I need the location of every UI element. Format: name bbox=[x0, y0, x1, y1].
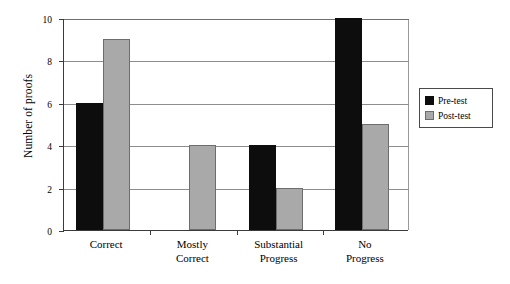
x-tick-label-no-progress: No Progress bbox=[322, 238, 408, 265]
x-tick-label-substantial-progress: Substantial Progress bbox=[236, 238, 322, 265]
y-tick-label-2: 2 bbox=[47, 185, 52, 195]
y-tick-label-6: 6 bbox=[47, 100, 52, 110]
legend-label-post-test: Post-test bbox=[438, 111, 471, 121]
bar-post-test-mostly-correct bbox=[189, 145, 216, 230]
y-tick-label-0: 0 bbox=[47, 227, 52, 237]
y-tick-label-8: 8 bbox=[47, 57, 52, 67]
plot-area: 0246810 bbox=[63, 19, 408, 231]
y-tick-label-4: 4 bbox=[47, 142, 52, 152]
x-tick-label-mostly-correct: Mostly Correct bbox=[149, 238, 235, 265]
y-tick-mark-2: 2 bbox=[59, 189, 64, 190]
y-tick-label-10: 10 bbox=[43, 15, 53, 25]
chart-legend: Pre-test Post-test bbox=[419, 88, 493, 128]
y-tick-mark-6: 6 bbox=[59, 104, 64, 105]
y-axis-title-text: Number of proofs bbox=[22, 74, 34, 158]
bar-pre-test-no-progress bbox=[335, 18, 362, 230]
legend-item-pre-test: Pre-test bbox=[425, 94, 488, 107]
bar-post-test-no-progress bbox=[362, 124, 389, 230]
legend-label-pre-test: Pre-test bbox=[438, 96, 467, 106]
bar-chart-figure: Number of proofs 0246810 CorrectMostly C… bbox=[0, 0, 510, 284]
y-tick-mark-8: 8 bbox=[59, 61, 64, 62]
bar-pre-test-correct bbox=[76, 103, 103, 230]
bar-post-test-correct bbox=[103, 39, 130, 230]
bar-pre-test-substantial-progress bbox=[249, 145, 276, 230]
x-separator-0 bbox=[150, 230, 151, 235]
legend-swatch-pre-test bbox=[425, 96, 434, 105]
plot-right-border bbox=[408, 19, 409, 230]
bar-post-test-substantial-progress bbox=[276, 188, 303, 230]
legend-swatch-post-test bbox=[425, 111, 434, 120]
y-tick-mark-0: 0 bbox=[59, 231, 64, 232]
y-tick-mark-10: 10 bbox=[59, 19, 64, 20]
x-separator-2 bbox=[323, 230, 324, 235]
y-tick-mark-4: 4 bbox=[59, 146, 64, 147]
x-tick-label-correct: Correct bbox=[63, 238, 149, 252]
x-separator-1 bbox=[237, 230, 238, 235]
legend-item-post-test: Post-test bbox=[425, 109, 488, 122]
